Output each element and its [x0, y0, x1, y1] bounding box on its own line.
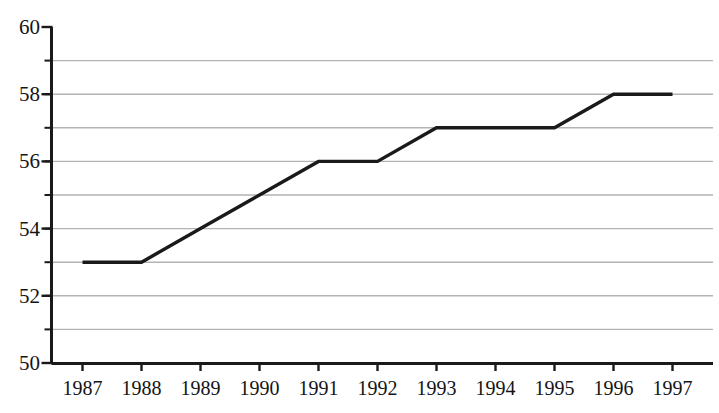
y-axis-tick-label: 56: [6, 149, 40, 174]
x-axis-tick-label: 1989: [181, 377, 221, 400]
x-axis-tick-label: 1997: [653, 377, 693, 400]
x-axis-tick-label: 1988: [122, 377, 162, 400]
chart-plot-area: [0, 0, 719, 413]
y-axis-tick-label: 60: [6, 15, 40, 40]
x-axis-tick-label: 1992: [358, 377, 398, 400]
x-axis-tick-label: 1990: [240, 377, 280, 400]
gridlines: [52, 61, 714, 330]
x-axis-tick-label: 1987: [63, 377, 103, 400]
x-axis-tick-label: 1995: [535, 377, 575, 400]
data-series-line: [83, 94, 673, 262]
x-axis-tick-label: 1994: [476, 377, 516, 400]
x-axis-tick-label: 1996: [594, 377, 634, 400]
x-axis-tick-label: 1993: [417, 377, 457, 400]
x-axis-tick-label: 1991: [299, 377, 339, 400]
line-chart: 505254565860 198719881989199019911992199…: [0, 0, 719, 413]
y-axis-tick-label: 54: [6, 216, 40, 241]
y-axis-tick-label: 52: [6, 283, 40, 308]
y-axis-tick-label: 50: [6, 351, 40, 376]
y-axis-tick-label: 58: [6, 82, 40, 107]
